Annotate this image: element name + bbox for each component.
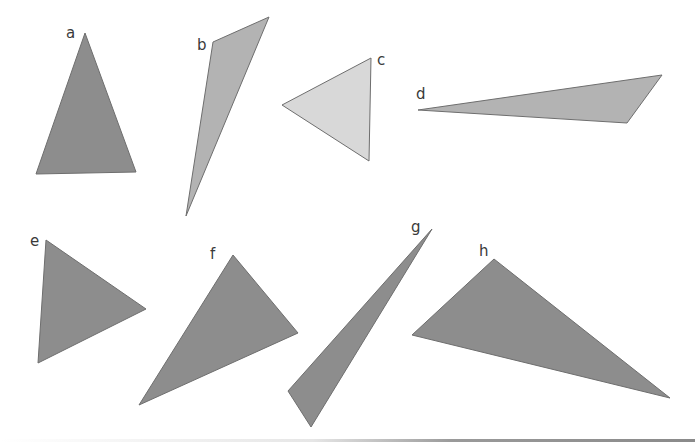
- triangle-d: d: [416, 75, 662, 123]
- triangle-g-shape: [288, 229, 432, 427]
- triangle-a: a: [36, 24, 136, 174]
- triangle-d-shape: [418, 75, 662, 123]
- triangle-c-label: c: [377, 51, 385, 69]
- triangle-d-label: d: [416, 85, 426, 103]
- triangle-h: h: [412, 242, 670, 398]
- triangle-f: f: [139, 245, 298, 405]
- triangle-e-label: e: [30, 232, 39, 250]
- triangle-a-label: a: [66, 24, 75, 42]
- triangles-figure: a b c d e f g h: [0, 0, 695, 442]
- triangle-f-label: f: [210, 245, 216, 263]
- triangle-e-shape: [38, 240, 146, 363]
- triangle-g: g: [288, 218, 432, 427]
- triangle-h-shape: [412, 259, 670, 398]
- triangle-c-shape: [282, 58, 371, 161]
- triangle-b: b: [186, 17, 269, 216]
- triangle-a-shape: [36, 33, 136, 174]
- triangle-b-label: b: [197, 36, 207, 54]
- triangle-e: e: [30, 232, 146, 363]
- triangle-f-shape: [139, 255, 298, 405]
- triangle-c: c: [282, 51, 385, 161]
- triangles-svg: a b c d e f g h: [0, 0, 695, 442]
- triangle-g-label: g: [411, 218, 421, 236]
- triangle-h-label: h: [479, 242, 489, 260]
